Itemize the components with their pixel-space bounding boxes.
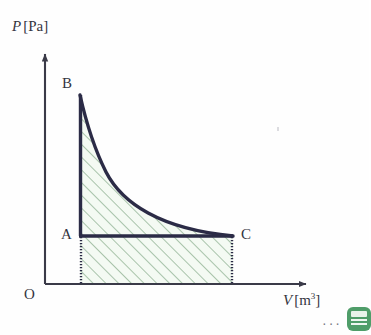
- origin-label: O: [24, 286, 35, 303]
- region-rect-below-AC: [80, 236, 233, 284]
- scan-speck-artifact: [277, 127, 279, 131]
- x-axis-unit-exponent: 3: [311, 291, 316, 301]
- point-label-b: B: [62, 75, 72, 92]
- x-axis-label: V[m3]: [283, 291, 320, 309]
- y-axis-label: P[Pa]: [12, 18, 48, 35]
- point-label-c: C: [241, 226, 251, 243]
- app-icon-glyph-bar-1: [351, 319, 367, 321]
- app-icon-glyph-bar-2: [351, 323, 367, 325]
- y-axis-unit: [Pa]: [23, 18, 48, 34]
- x-axis-symbol: V: [283, 292, 294, 308]
- y-axis-symbol: P: [12, 18, 23, 34]
- overflow-ellipsis[interactable]: ···: [322, 315, 342, 331]
- green-app-icon[interactable]: [347, 307, 371, 331]
- app-icon-glyph-top: [351, 311, 367, 317]
- x-axis-unit: [m3]: [294, 292, 320, 308]
- point-label-a: A: [61, 226, 72, 243]
